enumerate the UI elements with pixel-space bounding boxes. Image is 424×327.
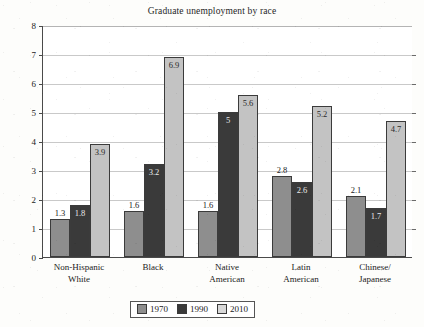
y-tick-right-6 (412, 84, 416, 85)
legend-item-1990[interactable]: 1990 (177, 304, 208, 314)
y-tick-2 (39, 200, 43, 201)
y-tick-right-7 (412, 55, 416, 56)
bar-1990-group-3[interactable]: 5 (218, 112, 238, 257)
x-axis-label-line2: American (190, 274, 264, 286)
plot-area: 1.31.61.62.82.11.83.252.61.73.96.95.65.2… (42, 26, 412, 258)
x-axis-label-line1: Native (190, 262, 264, 274)
x-axis-label-3: NativeAmerican (190, 262, 264, 285)
x-axis-label-1: Non-HispanicWhite (42, 262, 116, 285)
y-tick-5 (39, 113, 43, 114)
y-tick-label-8: 8 (12, 21, 36, 31)
x-axis-label-line1: Non-Hispanic (42, 262, 116, 274)
bar-value-label: 2.6 (297, 186, 308, 195)
bar-value-label: 3.2 (149, 168, 160, 177)
x-axis-label-line1: Latin (264, 262, 338, 274)
y-tick-6 (39, 84, 43, 85)
x-axis-label-line1: Chinese/ (338, 262, 412, 274)
bar-1990-group-1[interactable]: 1.8 (70, 205, 90, 257)
chart-legend: 1970 1990 2010 (130, 301, 255, 318)
legend-swatch-icon-2010 (217, 304, 227, 314)
y-tick-0 (39, 258, 43, 259)
y-tick-3 (39, 171, 43, 172)
y-tick-label-2: 2 (12, 195, 36, 205)
bar-1970-group-5[interactable]: 2.1 (346, 196, 366, 257)
y-tick-right-5 (412, 113, 416, 114)
y-tick-right-1 (412, 229, 416, 230)
legend-swatch-icon-1990 (177, 304, 187, 314)
legend-label-2010: 2010 (230, 304, 248, 314)
x-axis-label-line1: Black (116, 262, 190, 274)
y-tick-label-4: 4 (12, 137, 36, 147)
bar-2010-group-3[interactable]: 5.6 (238, 95, 258, 257)
bar-2010-group-4[interactable]: 5.2 (312, 106, 332, 257)
bar-value-label: 1.8 (75, 209, 86, 218)
bar-1970-group-2[interactable]: 1.6 (124, 211, 144, 257)
x-axis-label-line2: American (264, 274, 338, 286)
bar-value-label: 1.7 (371, 212, 382, 221)
chart-container: Graduate unemployment by race 1.31.61.62… (0, 0, 424, 327)
gridline-8 (43, 26, 412, 27)
legend-label-1970: 1970 (150, 304, 168, 314)
bar-value-label: 5.2 (317, 110, 328, 119)
y-tick-7 (39, 55, 43, 56)
gridline-7 (43, 55, 412, 56)
y-tick-right-2 (412, 200, 416, 201)
chart-title: Graduate unemployment by race (0, 6, 424, 16)
gridline-6 (43, 84, 412, 85)
bar-1990-group-5[interactable]: 1.7 (366, 208, 386, 257)
bar-value-label: 3.9 (95, 148, 106, 157)
x-axis-label-5: Chinese/Japanese (338, 262, 412, 285)
x-axis-label-2: Black (116, 262, 190, 274)
x-axis-label-line2: White (42, 274, 116, 286)
y-tick-label-7: 7 (12, 50, 36, 60)
bar-1990-group-2[interactable]: 3.2 (144, 164, 164, 257)
bar-1990-group-4[interactable]: 2.6 (292, 182, 312, 257)
x-axis-label-line2: Japanese (338, 274, 412, 286)
bar-value-label: 1.6 (129, 201, 140, 210)
y-tick-8 (39, 26, 43, 27)
bar-value-label: 5 (226, 116, 230, 125)
x-axis-label-4: LatinAmerican (264, 262, 338, 285)
bar-value-label: 2.8 (277, 166, 288, 175)
bar-2010-group-2[interactable]: 6.9 (164, 57, 184, 257)
bar-value-label: 5.6 (243, 99, 254, 108)
y-tick-right-3 (412, 171, 416, 172)
legend-label-1990: 1990 (190, 304, 208, 314)
y-tick-label-0: 0 (12, 253, 36, 263)
y-tick-right-4 (412, 142, 416, 143)
legend-item-1970[interactable]: 1970 (137, 304, 168, 314)
bar-1970-group-3[interactable]: 1.6 (198, 211, 218, 257)
bar-value-label: 1.3 (55, 209, 66, 218)
legend-swatch-icon-1970 (137, 304, 147, 314)
bar-value-label: 6.9 (169, 61, 180, 70)
bar-2010-group-1[interactable]: 3.9 (90, 144, 110, 257)
y-tick-label-6: 6 (12, 79, 36, 89)
bar-1970-group-1[interactable]: 1.3 (50, 219, 70, 257)
bar-value-label: 1.6 (203, 201, 214, 210)
y-tick-4 (39, 142, 43, 143)
bar-2010-group-5[interactable]: 4.7 (386, 121, 406, 257)
y-tick-label-5: 5 (12, 108, 36, 118)
bar-value-label: 4.7 (391, 125, 402, 134)
legend-item-2010[interactable]: 2010 (217, 304, 248, 314)
bar-1970-group-4[interactable]: 2.8 (272, 176, 292, 257)
y-tick-label-3: 3 (12, 166, 36, 176)
y-tick-1 (39, 229, 43, 230)
bar-value-label: 2.1 (351, 186, 362, 195)
y-tick-label-1: 1 (12, 224, 36, 234)
